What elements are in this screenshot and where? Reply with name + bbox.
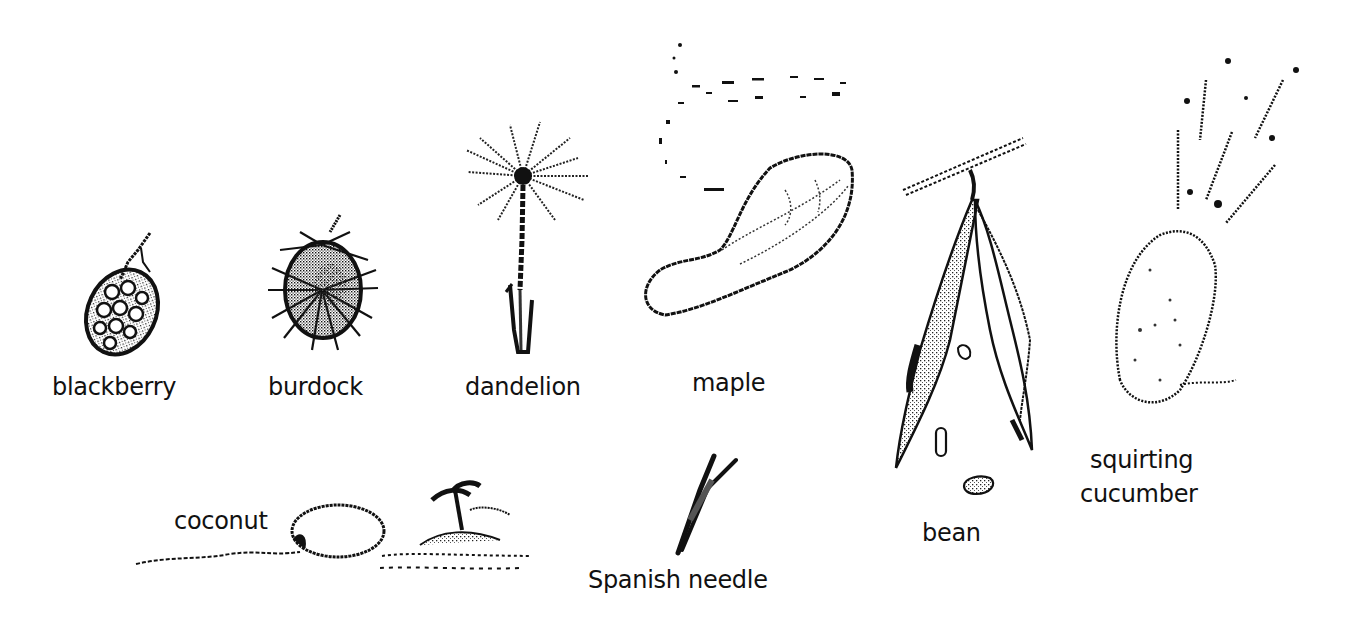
blackberry-illustration: [73, 233, 172, 366]
dandelion-illustration: [466, 122, 588, 352]
maple-illustration: [646, 43, 853, 315]
burdock-illustration: [268, 215, 378, 350]
spanish-needle-illustration: [678, 456, 736, 553]
label-coconut: coconut: [174, 508, 268, 534]
bean-illustration: [896, 138, 1032, 494]
label-blackberry: blackberry: [52, 374, 176, 400]
label-maple: maple: [692, 370, 765, 396]
label-spanish-needle: Spanish needle: [588, 567, 768, 593]
label-burdock: burdock: [268, 374, 363, 400]
label-dandelion: dandelion: [465, 374, 581, 400]
label-cucumber: cucumber: [1080, 481, 1198, 507]
label-squirting: squirting: [1090, 447, 1193, 473]
squirting-cucumber-illustration: [1116, 58, 1299, 402]
label-bean: bean: [922, 520, 981, 546]
